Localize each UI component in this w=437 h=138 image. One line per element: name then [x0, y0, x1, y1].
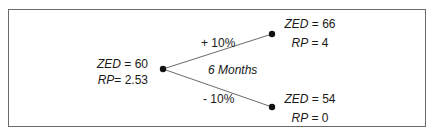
up-zed-label: ZED = 66: [280, 17, 340, 31]
root-zed-label: ZED = 60: [90, 57, 148, 71]
up-var1-name: ZED: [284, 17, 308, 31]
down-rp-label: RP = 0: [280, 111, 340, 125]
up-var1-value: 66: [322, 17, 335, 31]
period-label: 6 Months: [208, 63, 257, 77]
period-text: 6 Months: [208, 63, 257, 77]
root-var2-name: RP: [98, 73, 115, 87]
down-var2-name: RP: [291, 111, 308, 125]
up-var2-name: RP: [291, 36, 308, 50]
down-var2-value: 0: [322, 111, 329, 125]
down-node-dot: [269, 104, 275, 110]
root-var1-value: 60: [135, 57, 148, 71]
root-rp-label: RP= 2.53: [90, 73, 148, 87]
up-node-dot: [269, 31, 275, 37]
root-node-dot: [160, 66, 166, 72]
up-var2-value: 4: [322, 36, 329, 50]
down-var1-value: 54: [322, 92, 335, 106]
down-var1-name: ZED: [284, 92, 308, 106]
root-var1-name: ZED: [97, 57, 121, 71]
down-zed-label: ZED = 54: [280, 92, 340, 106]
up-rp-label: RP = 4: [280, 36, 340, 50]
down-edge-label: - 10%: [203, 92, 234, 106]
root-var2-value: 2.53: [125, 73, 148, 87]
up-edge-label: + 10%: [201, 36, 235, 50]
